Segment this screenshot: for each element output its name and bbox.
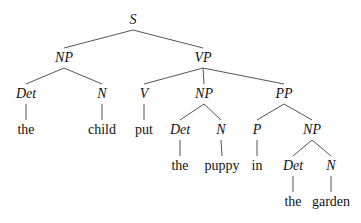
leaf-word: in <box>252 158 263 173</box>
node-label-np: NP <box>302 122 321 137</box>
tree-edge <box>64 30 133 48</box>
tree-edge <box>257 104 284 120</box>
leaf-word: the <box>17 122 34 137</box>
tree-edge <box>293 140 312 156</box>
leaf-word: puppy <box>205 158 240 173</box>
node-label-v: V <box>140 86 150 101</box>
tree-edge <box>203 68 204 84</box>
tree-edge <box>203 68 284 84</box>
syntax-tree: SNPVPDetNVNPPPthechildputDetNPNPthepuppy… <box>0 0 361 223</box>
node-label-n: N <box>215 122 226 137</box>
tree-edge <box>64 68 102 84</box>
node-label-vp: VP <box>194 50 212 65</box>
node-label-n: N <box>96 86 107 101</box>
tree-edge <box>180 104 204 120</box>
tree-labels: SNPVPDetNVNPPPthechildputDetNPNPthepuppy… <box>15 12 350 209</box>
leaf-word: the <box>171 158 188 173</box>
node-label-np: NP <box>194 86 213 101</box>
tree-edge <box>312 140 331 156</box>
node-label-det: Det <box>169 122 191 137</box>
leaf-word: garden <box>312 194 350 209</box>
node-label-det: Det <box>15 86 37 101</box>
leaf-word: the <box>284 194 301 209</box>
node-label-n: N <box>325 158 336 173</box>
node-label-p: P <box>252 122 262 137</box>
tree-edge <box>144 68 203 84</box>
node-label-pp: PP <box>274 86 293 101</box>
node-label-np: NP <box>54 50 73 65</box>
tree-edge <box>204 104 221 120</box>
tree-edge <box>133 30 203 48</box>
tree-edge <box>284 104 312 120</box>
node-label-det: Det <box>282 158 304 173</box>
tree-edge <box>221 140 222 156</box>
tree-edge <box>26 68 64 84</box>
leaf-word: put <box>135 122 153 137</box>
leaf-word: child <box>88 122 116 137</box>
node-label-s: S <box>130 12 137 27</box>
